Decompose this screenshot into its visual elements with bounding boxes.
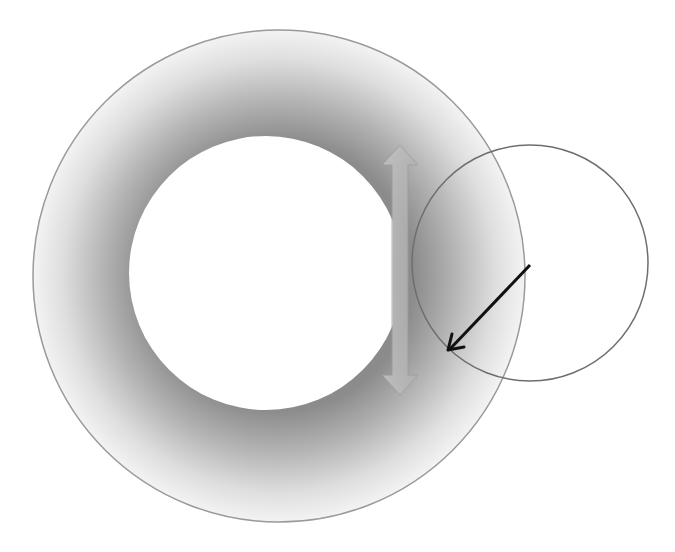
diagram-svg (0, 0, 675, 552)
inner-white-region (129, 136, 403, 410)
diagram-canvas (0, 0, 675, 552)
